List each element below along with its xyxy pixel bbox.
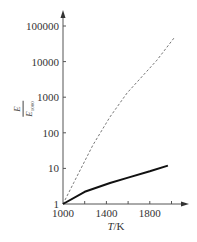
- y-tick-label: 1000: [37, 91, 60, 103]
- y-tick-label: 100000: [26, 20, 60, 32]
- y-tick-label: 1: [54, 198, 60, 210]
- y-axis-label: E E1000: [10, 92, 38, 126]
- y-label-numerator: E: [13, 104, 23, 114]
- y-tick-label: 100: [43, 127, 60, 139]
- y-label-denominator: E1000: [23, 101, 36, 117]
- x-axis-arrow-icon: [181, 202, 189, 207]
- dashed-series-line: [63, 38, 174, 204]
- y-label-denominator-subscript: 1000: [30, 101, 35, 111]
- y-label-denominator-symbol: E: [24, 111, 34, 117]
- y-tick-label: 10000: [32, 56, 60, 68]
- x-tick-label: 1800: [139, 207, 162, 219]
- x-axis-label: T/K: [107, 220, 124, 232]
- solid-series-line: [63, 166, 168, 204]
- y-tick-label: 10: [48, 162, 60, 174]
- y-axis-arrow-icon: [61, 10, 66, 18]
- x-tick-label: 1400: [95, 207, 118, 219]
